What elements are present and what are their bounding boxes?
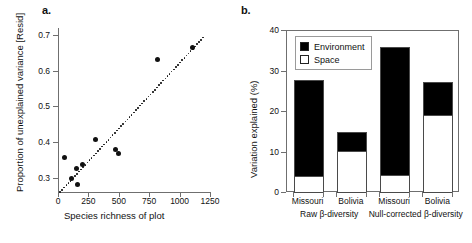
panel-a-y-tick: [53, 142, 58, 143]
panel-b-legend-swatch-space: [300, 55, 309, 64]
panel-b-y-tick: [281, 192, 286, 193]
panel-b-bar-segment-space: [424, 115, 452, 192]
panel-a-trend-dot: [120, 125, 122, 127]
panel-b-bar: [337, 132, 367, 193]
panel-b-y-tick: [281, 71, 286, 72]
panel-a-trend-dot: [114, 132, 116, 134]
panel-a-trend-dot: [158, 84, 160, 86]
panel-a-trend-dot: [99, 148, 101, 150]
panel-b-bar-segment-environment: [424, 83, 452, 115]
panel-a-y-tick: [53, 35, 58, 36]
panel-a-y-tick: [53, 106, 58, 107]
panel-b-bar-segment-space: [381, 175, 409, 192]
panel-b-bar-chart: b. Variation explained (%) 010203040 Mis…: [236, 0, 472, 243]
panel-a-data-point: [75, 182, 80, 187]
panel-b-bar-segment-space: [338, 151, 366, 192]
panel-a-x-tick-label: 1250: [190, 196, 230, 206]
panel-a-trend-dot: [196, 43, 198, 45]
panel-a-trend-dot: [103, 144, 105, 146]
panel-a-trend-dot: [85, 164, 87, 166]
panel-b-bar-segment-environment: [338, 133, 366, 150]
figure-root: a. Proportion of unexplained variance [R…: [0, 0, 472, 243]
panel-a-trend-dot: [66, 184, 68, 186]
panel-b-y-tick-label: 40: [261, 25, 279, 35]
panel-a-trend-dot: [154, 89, 156, 91]
panel-b-group-label: Null-corrected β-diversity: [356, 209, 472, 219]
panel-a-trend-dot: [68, 182, 70, 184]
panel-b-bar: [423, 82, 453, 193]
panel-b-category-label: Bolivia: [407, 196, 467, 206]
panel-b-legend: EnvironmentSpace: [295, 36, 372, 70]
panel-a-trend-dot: [106, 141, 108, 143]
panel-a-trend-dot: [200, 39, 202, 41]
panel-b-label: b.: [241, 4, 250, 16]
panel-a-trend-dot: [137, 107, 139, 109]
panel-a-trend-dot: [184, 57, 186, 59]
panel-b-legend-item: Environment: [300, 40, 365, 53]
panel-b-y-tick-label: 0: [261, 187, 279, 197]
panel-b-y-tick-label: 20: [261, 106, 279, 116]
panel-a-y-tick: [53, 178, 58, 179]
panel-a-trend-dot: [181, 59, 183, 61]
panel-a-y-tick-label: 0.5: [24, 101, 50, 111]
panel-b-bar-segment-environment: [295, 81, 323, 176]
panel-a-y-tick-label: 0.6: [24, 66, 50, 76]
panel-b-legend-label: Space: [314, 55, 340, 65]
panel-a-trend-dot: [95, 153, 97, 155]
panel-b-y-tick: [281, 30, 286, 31]
panel-a-trend-dot: [122, 123, 124, 125]
panel-a-trend-dot: [143, 100, 145, 102]
panel-b-y-tick-label: 30: [261, 66, 279, 76]
panel-a-trend-dot: [177, 64, 179, 66]
panel-b-y-axis-title: Variation explained (%): [248, 80, 259, 178]
panel-b-legend-label: Environment: [314, 42, 365, 52]
panel-b-bar: [380, 47, 410, 193]
panel-b-legend-item: Space: [300, 53, 365, 66]
panel-b-bar-segment-environment: [381, 48, 409, 175]
panel-a-label: a.: [42, 4, 51, 16]
panel-a-trend-dot: [173, 69, 175, 71]
panel-a-trend-dot: [74, 175, 76, 177]
panel-a-y-tick-label: 0.4: [24, 137, 50, 147]
panel-b-y-tick: [281, 152, 286, 153]
panel-a-y-tick-label: 0.3: [24, 173, 50, 183]
panel-a-trend-dot: [192, 48, 194, 50]
panel-b-bar-segment-space: [295, 176, 323, 192]
panel-a-y-tick: [53, 71, 58, 72]
panel-a-trend-dot: [152, 91, 154, 93]
panel-a-trend-dot: [160, 82, 162, 84]
panel-b-legend-swatch-environment: [300, 42, 309, 51]
panel-a-trend-dot: [175, 66, 177, 68]
panel-a-trend-dot: [80, 169, 82, 171]
panel-a-data-point: [155, 57, 160, 62]
panel-a-trend-dot: [61, 189, 63, 191]
panel-a-trend-dot: [82, 166, 84, 168]
panel-a-trend-dot: [59, 191, 61, 193]
panel-a-trend-dot: [141, 103, 143, 105]
panel-a-x-axis-line: [58, 192, 211, 193]
panel-a-trend-dot: [118, 128, 120, 130]
panel-a-trend-dot: [198, 41, 200, 43]
panel-a-trend-dot: [76, 173, 78, 175]
panel-a-trend-dot: [135, 109, 137, 111]
panel-a-x-axis-title: Species richness of plot: [64, 210, 164, 221]
panel-b-y-tick-label: 10: [261, 147, 279, 157]
panel-a-trend-dot: [146, 98, 148, 100]
panel-a-y-tick-label: 0.7: [24, 30, 50, 40]
panel-a-trend-dot: [97, 150, 99, 152]
panel-a-scatter: a. Proportion of unexplained variance [R…: [0, 0, 236, 243]
panel-b-y-tick: [281, 111, 286, 112]
panel-b-bar: [294, 80, 324, 193]
